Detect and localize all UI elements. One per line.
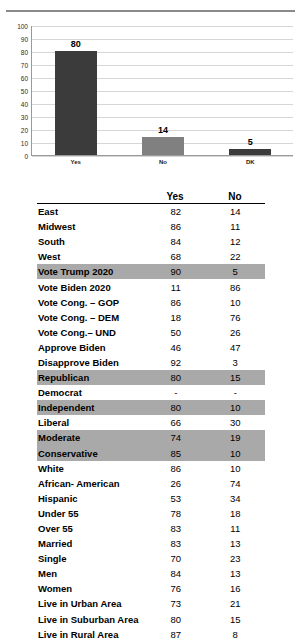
row-value-no: 10 xyxy=(206,463,266,474)
row-value-yes: 80 xyxy=(146,372,206,383)
table-row: Under 557818 xyxy=(37,506,265,521)
row-value-no: 34 xyxy=(206,493,266,504)
row-value-no: 15 xyxy=(206,614,266,625)
y-axis-tick-label: 50 xyxy=(21,88,28,95)
chart-plot-area: 100908070605040302010080Yes14No5DK xyxy=(31,26,293,156)
table-row: Vote Cong. – GOP8610 xyxy=(37,295,265,310)
row-value-no: 76 xyxy=(206,312,266,323)
y-axis-tick-label: 60 xyxy=(21,75,28,82)
table-row: Approve Biden4647 xyxy=(37,340,265,355)
row-value-yes: 78 xyxy=(146,508,206,519)
row-label: Liberal xyxy=(37,417,146,428)
row-value-yes: 80 xyxy=(146,614,206,625)
row-value-yes: 87 xyxy=(146,629,206,640)
row-value-yes: 46 xyxy=(146,342,206,353)
x-axis-tick-label: No xyxy=(159,159,167,165)
row-value-yes: 66 xyxy=(146,417,206,428)
row-label: Vote Biden 2020 xyxy=(37,282,146,293)
row-label: Live in Rural Area xyxy=(37,629,146,640)
row-value-no: 18 xyxy=(206,508,266,519)
row-value-yes: 80 xyxy=(146,402,206,413)
bar-chart: 100908070605040302010080Yes14No5DK xyxy=(0,22,301,182)
table-row: South8412 xyxy=(37,234,265,249)
row-label: Democrat xyxy=(37,387,146,398)
row-value-yes: 82 xyxy=(146,206,206,217)
table-row: Conservative8510 xyxy=(37,446,265,461)
row-label: Over 55 xyxy=(37,523,146,534)
row-value-yes: 84 xyxy=(146,236,206,247)
row-label: Live in Urban Area xyxy=(37,598,146,609)
row-value-yes: 70 xyxy=(146,553,206,564)
row-value-no: 74 xyxy=(206,478,266,489)
table-header-yes: Yes xyxy=(145,191,205,203)
bar-value-label: 5 xyxy=(248,137,253,147)
chart-gridline xyxy=(32,26,293,27)
row-value-yes: 92 xyxy=(146,357,206,368)
row-value-yes: 11 xyxy=(146,282,206,293)
bar-value-label: 80 xyxy=(71,39,81,49)
table-row: Men8413 xyxy=(37,566,265,581)
table-header-row: Yes No xyxy=(37,188,265,204)
y-axis-tick-label: 10 xyxy=(21,140,28,147)
row-label: Hispanic xyxy=(37,493,146,504)
row-value-yes: 83 xyxy=(146,523,206,534)
row-value-no: 47 xyxy=(206,342,266,353)
row-value-no: 13 xyxy=(206,568,266,579)
table-row: East8214 xyxy=(37,204,265,219)
y-axis-tick-label: 20 xyxy=(21,127,28,134)
row-label: East xyxy=(37,206,146,217)
row-label: Vote Trump 2020 xyxy=(37,266,146,277)
crosstab-table: Yes No East8214Midwest8611South8412West6… xyxy=(37,188,265,642)
x-axis-tick-label: DK xyxy=(246,159,255,165)
row-value-no: - xyxy=(206,387,266,398)
row-label: Married xyxy=(37,538,146,549)
row-label: Vote Cong. – GOP xyxy=(37,297,146,308)
table-row: Hispanic5334 xyxy=(37,491,265,506)
chart-bar: 80Yes xyxy=(55,51,97,155)
table-row: Democrat-- xyxy=(37,385,265,400)
row-value-yes: 18 xyxy=(146,312,206,323)
table-row: West6822 xyxy=(37,249,265,264)
table-row: Women7616 xyxy=(37,581,265,596)
chart-bar: 14No xyxy=(142,137,184,155)
chart-bar: 5DK xyxy=(229,149,271,156)
y-axis-tick-label: 0 xyxy=(24,153,28,160)
y-axis-tick-label: 70 xyxy=(21,62,28,69)
row-label: Live in Suburban Area xyxy=(37,614,146,625)
y-axis-tick-label: 100 xyxy=(17,23,28,30)
table-body: East8214Midwest8611South8412West6822Vote… xyxy=(37,204,265,642)
row-value-yes: 50 xyxy=(146,327,206,338)
row-value-no: 14 xyxy=(206,206,266,217)
table-row: Liberal6630 xyxy=(37,415,265,430)
row-label: South xyxy=(37,236,146,247)
row-value-no: 86 xyxy=(206,282,266,293)
table-row: Vote Biden 20201186 xyxy=(37,279,265,294)
table-row: Independent8010 xyxy=(37,400,265,415)
row-value-no: 23 xyxy=(206,553,266,564)
row-label: Republican xyxy=(37,372,146,383)
row-value-yes: 86 xyxy=(146,221,206,232)
row-label: Under 55 xyxy=(37,508,146,519)
row-value-no: 11 xyxy=(206,523,266,534)
table-row: Vote Trump 2020905 xyxy=(37,264,265,279)
row-value-no: 15 xyxy=(206,372,266,383)
table-row: Live in Urban Area7321 xyxy=(37,596,265,611)
row-value-no: 10 xyxy=(206,402,266,413)
row-label: Independent xyxy=(37,402,146,413)
bar-value-label: 14 xyxy=(158,125,168,135)
row-value-no: 16 xyxy=(206,583,266,594)
row-label: Vote Cong.– UND xyxy=(37,327,146,338)
row-label: African- American xyxy=(37,478,146,489)
row-label: White xyxy=(37,463,146,474)
table-row: Midwest8611 xyxy=(37,219,265,234)
row-value-no: 13 xyxy=(206,538,266,549)
table-row: Vote Cong.– UND5026 xyxy=(37,325,265,340)
row-value-yes: 76 xyxy=(146,583,206,594)
row-value-yes: 68 xyxy=(146,251,206,262)
row-label: Disapprove Biden xyxy=(37,357,146,368)
y-axis-tick-label: 30 xyxy=(21,114,28,121)
row-value-no: 30 xyxy=(206,417,266,428)
row-value-no: 22 xyxy=(206,251,266,262)
row-value-no: 5 xyxy=(206,266,266,277)
table-row: Over 558311 xyxy=(37,521,265,536)
